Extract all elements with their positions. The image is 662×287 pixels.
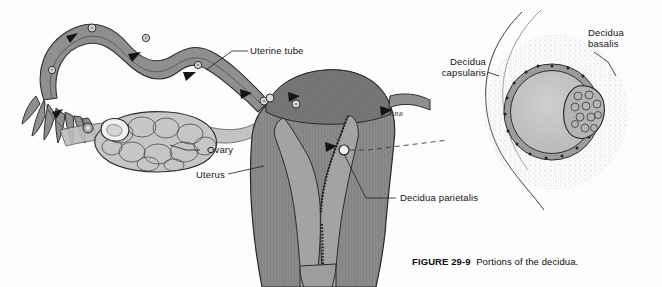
main-anatomy-group bbox=[22, 24, 430, 287]
anatomy-illustration bbox=[0, 0, 662, 287]
uterus-body bbox=[251, 70, 395, 287]
label-uterine-tube: Uterine tube bbox=[250, 45, 304, 56]
label-uterus: Uterus bbox=[196, 169, 225, 180]
figure-caption: FIGURE 29-9 Portions of the decidua. bbox=[412, 256, 578, 267]
label-ovary: Ovary bbox=[207, 144, 233, 155]
artist-signature: NBR bbox=[389, 110, 403, 118]
figure-caption-text: Portions of the decidua. bbox=[476, 256, 578, 267]
ovary bbox=[83, 112, 217, 172]
uterine-tube-left bbox=[40, 24, 268, 112]
figure-container: Uterine tube Ovary Uterus Decidua pariet… bbox=[0, 0, 662, 287]
figure-number: FIGURE 29-9 bbox=[412, 256, 471, 267]
label-decidua-basalis: Decidua basalis bbox=[588, 27, 624, 49]
label-decidua-capsularis: Decidua capsularis bbox=[424, 56, 486, 78]
label-decidua-parietalis: Decidua parietalis bbox=[400, 192, 478, 203]
